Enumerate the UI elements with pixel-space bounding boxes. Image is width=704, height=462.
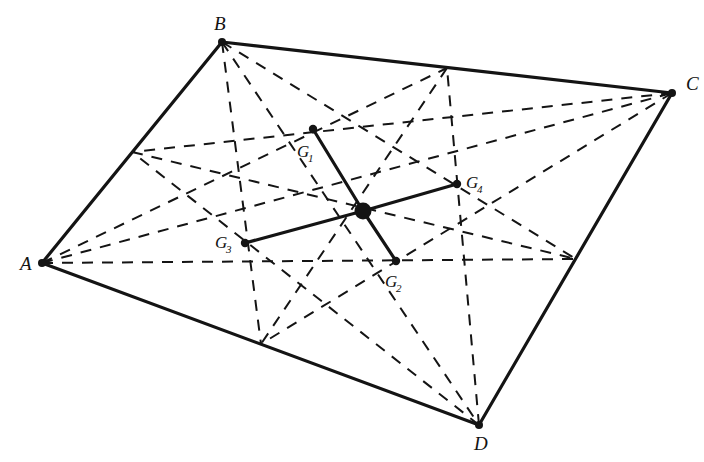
vertex-label-A: A xyxy=(18,253,32,274)
centroid-dot-G2 xyxy=(392,257,400,265)
centroid-dot-G3 xyxy=(241,239,249,247)
vertex-label-B: B xyxy=(214,13,226,34)
hub-dot xyxy=(355,203,372,220)
geometry-diagram: ABCDG1G2G3G4 xyxy=(0,0,704,462)
vertex-dot-D xyxy=(475,421,483,429)
vertex-label-C: C xyxy=(686,73,699,94)
figure-root: ABCDG1G2G3G4 xyxy=(0,0,704,462)
centroid-subscript-G2: 2 xyxy=(396,282,402,294)
centroid-subscript-G4: 4 xyxy=(477,183,483,195)
centroid-dot-G4 xyxy=(453,180,461,188)
diagram-background xyxy=(0,0,704,462)
centroid-dot-G1 xyxy=(309,125,317,133)
vertex-dot-B xyxy=(218,38,226,46)
vertex-label-D: D xyxy=(473,433,488,454)
centroid-subscript-G3: 3 xyxy=(225,243,232,255)
centroid-subscript-G1: 1 xyxy=(308,152,314,164)
vertex-dot-A xyxy=(38,259,46,267)
vertex-dot-C xyxy=(668,89,676,97)
